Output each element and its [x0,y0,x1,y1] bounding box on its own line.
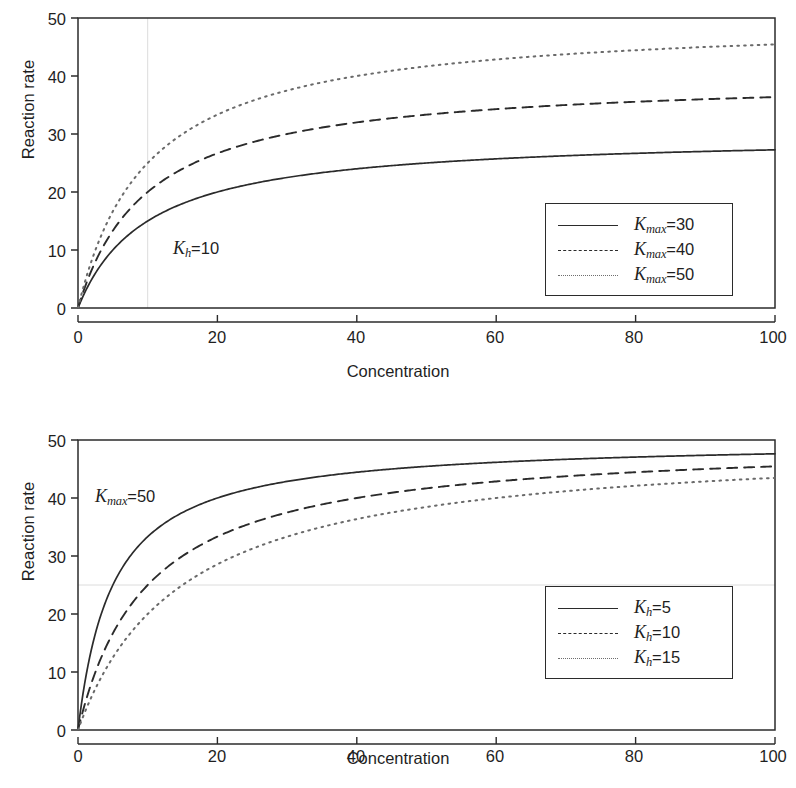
x-tick-label: 0 [48,328,108,347]
y-tick-label: 30 [26,126,66,145]
legend-item-label: Kh=15 [634,647,680,670]
legend-symbol: K [634,214,646,234]
annotation-symbol: K [173,238,185,258]
y-tick-label: 0 [26,722,66,741]
y-tick-label: 40 [26,68,66,87]
legend-equals: = [652,648,662,666]
annotation-kmax-bottom: Kmax=50 [95,486,155,509]
legend-symbol: K [634,622,646,642]
legend-item[interactable]: Kmax=40 [558,238,718,263]
y-tick-label: 0 [26,300,66,319]
y-tick-label: 10 [26,242,66,261]
x-tick-label: 100 [743,747,796,766]
annotation-equals: = [127,487,137,505]
legend-equals: = [666,240,676,258]
x-axis-label-bottom: Concentration [0,749,796,768]
legend-subscript: max [646,247,666,261]
legend-value: 50 [676,265,694,283]
legend-line-dotted-icon [558,652,618,666]
x-tick-label: 20 [187,747,247,766]
legend-bottom: Kh=5 Kh=10 Kh=15 [545,586,733,679]
y-tick-label: 30 [26,548,66,567]
y-tick-label: 20 [26,606,66,625]
legend-line-dashed-icon [558,244,618,258]
x-tick-label: 80 [604,328,664,347]
annotation-value: 10 [201,239,219,257]
y-tick-label: 50 [26,10,66,29]
plot-area-top [0,0,796,394]
annotation-kh-top: Kh=10 [173,238,219,261]
annotation-equals: = [191,239,201,257]
y-tick-label: 50 [26,432,66,451]
legend-item[interactable]: Kh=15 [558,646,718,671]
legend-value: 5 [662,598,671,616]
x-tick-label: 60 [465,328,525,347]
legend-equals: = [666,265,676,283]
legend-subscript: max [646,272,666,286]
y-axis-label-bottom: Reaction rate [19,442,38,622]
legend-equals: = [652,623,662,641]
x-tick-label: 100 [743,328,796,347]
legend-item-label: Kmax=40 [634,239,694,262]
y-tick-label: 40 [26,490,66,509]
legend-value: 15 [662,648,680,666]
y-axis-label-top: Reaction rate [19,20,38,200]
x-tick-label: 20 [187,328,247,347]
y-tick-label: 10 [26,664,66,683]
legend-line-dashed-icon [558,627,618,641]
legend-symbol: K [634,264,646,284]
legend-value: 10 [662,623,680,641]
legend-value: 30 [676,215,694,233]
x-tick-label: 80 [604,747,664,766]
legend-item-label: Kmax=30 [634,214,694,237]
legend-line-solid-icon [558,602,618,616]
legend-item-label: Kh=10 [634,622,680,645]
legend-item[interactable]: Kh=5 [558,596,718,621]
chart-panel-top: Reaction rate Concentration 50 40 30 20 … [0,0,796,394]
legend-item-label: Kh=5 [634,597,671,620]
legend-item[interactable]: Kmax=30 [558,213,718,238]
x-tick-label: 40 [326,328,386,347]
legend-line-solid-icon [558,219,618,233]
legend-item[interactable]: Kh=10 [558,621,718,646]
legend-symbol: K [634,647,646,667]
legend-value: 40 [676,240,694,258]
legend-equals: = [666,215,676,233]
x-axis-label-top: Concentration [0,362,796,381]
x-tick-label: 60 [465,747,525,766]
x-tick-label: 0 [48,747,108,766]
legend-line-dotted-icon [558,269,618,283]
annotation-value: 50 [137,487,155,505]
annotation-subscript: max [107,494,127,508]
legend-symbol: K [634,239,646,259]
x-tick-label: 40 [326,747,386,766]
saturation-curves-figure: Reaction rate Concentration 50 40 30 20 … [0,0,796,788]
legend-item-label: Kmax=50 [634,264,694,287]
legend-item[interactable]: Kmax=50 [558,263,718,288]
legend-equals: = [652,598,662,616]
annotation-symbol: K [95,486,107,506]
chart-panel-bottom: Reaction rate Concentration 50 40 30 20 … [0,394,796,788]
legend-top: Kmax=30 Kmax=40 Kmax=50 [545,203,733,296]
y-tick-label: 20 [26,184,66,203]
legend-symbol: K [634,597,646,617]
legend-subscript: max [646,222,666,236]
